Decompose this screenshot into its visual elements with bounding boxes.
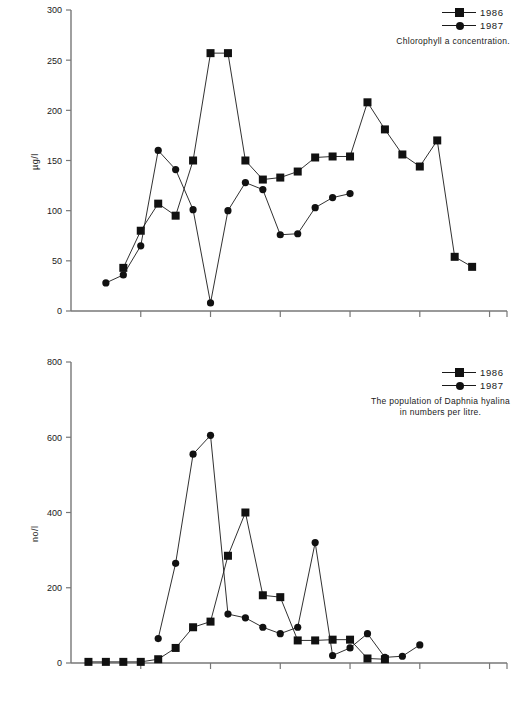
legend-entry-1987: 1987 (371, 379, 510, 392)
chlorophyll-chart-panel: 050100150200250300 1986 1987 Chlorophyll… (0, 0, 526, 352)
circle-marker-icon (442, 381, 476, 390)
legend-label-1987: 1987 (480, 380, 510, 391)
svg-text:400: 400 (47, 508, 62, 518)
legend-entry-1986: 1986 (396, 6, 510, 19)
chlorophyll-caption: Chlorophyll a concentration. (396, 36, 510, 47)
legend-entry-1986: 1986 (371, 366, 510, 379)
chlorophyll-y-axis-title: µg/l (30, 153, 40, 170)
svg-text:50: 50 (52, 256, 62, 266)
daphnia-chart-panel: 0200400600800 1986 1987 The population o… (0, 352, 526, 705)
daphnia-caption: The population of Daphnia hyalina in num… (371, 396, 510, 419)
svg-text:300: 300 (47, 5, 62, 15)
svg-text:200: 200 (47, 106, 62, 116)
svg-text:800: 800 (47, 357, 62, 367)
svg-text:600: 600 (47, 433, 62, 443)
daphnia-y-axis-title: no/l (30, 525, 40, 542)
legend-label-1986: 1986 (480, 7, 510, 18)
svg-text:100: 100 (47, 206, 62, 216)
chlorophyll-legend: 1986 1987 Chlorophyll a concentration. (396, 6, 510, 47)
legend-label-1986: 1986 (480, 367, 510, 378)
svg-text:200: 200 (47, 583, 62, 593)
svg-text:250: 250 (47, 56, 62, 66)
square-marker-icon (442, 368, 476, 377)
legend-entry-1987: 1987 (396, 19, 510, 32)
svg-text:150: 150 (47, 156, 62, 166)
daphnia-legend: 1986 1987 The population of Daphnia hyal… (371, 366, 510, 419)
legend-label-1987: 1987 (480, 20, 510, 31)
chlorophyll-plot: 050100150200250300 (0, 0, 526, 352)
circle-marker-icon (442, 21, 476, 30)
svg-text:0: 0 (57, 658, 62, 668)
square-marker-icon (442, 8, 476, 17)
svg-text:0: 0 (57, 306, 62, 316)
